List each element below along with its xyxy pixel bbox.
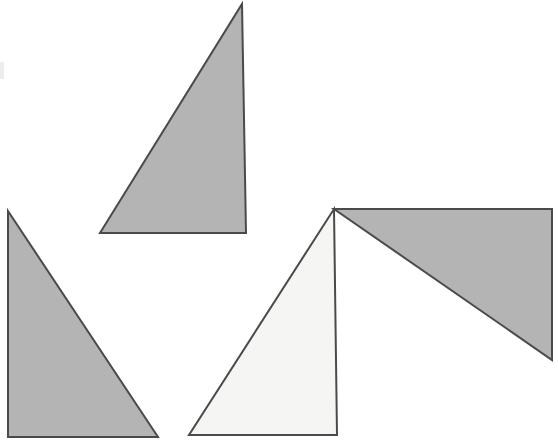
triangles-figure: [0, 0, 558, 443]
figure-canvas: [0, 0, 558, 443]
edge-mark-artifact: [0, 62, 4, 79]
